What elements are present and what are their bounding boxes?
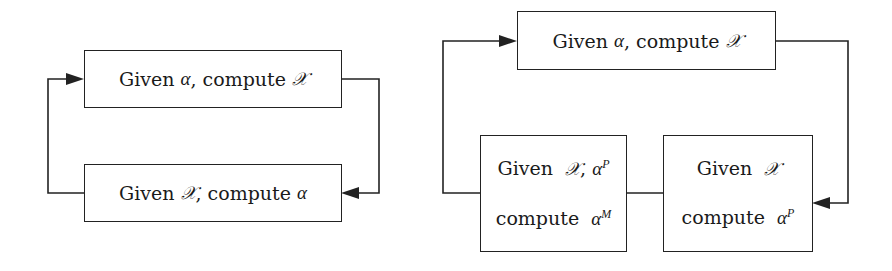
left-top-box: Given α, compute 𝒳 bbox=[84, 50, 342, 108]
superscript: M bbox=[601, 207, 611, 221]
label-text: compute bbox=[496, 207, 585, 229]
alpha-symbol: α bbox=[777, 208, 787, 229]
right-bottom-left-box: Given 𝒳, αP compute αM bbox=[480, 135, 627, 252]
right-bottom-right-box: Given 𝒳 compute αP bbox=[663, 135, 813, 252]
label-text: Given bbox=[119, 182, 174, 204]
label-text: Given bbox=[697, 157, 759, 179]
label-text: , compute bbox=[191, 68, 286, 90]
alpha-symbol: α bbox=[297, 182, 307, 204]
script-x-symbol: 𝒳 bbox=[764, 158, 779, 179]
script-x-symbol: 𝒳 bbox=[292, 68, 307, 90]
alpha-symbol: α bbox=[591, 208, 601, 229]
label-text: , compute bbox=[624, 30, 719, 52]
superscript: P bbox=[787, 206, 794, 220]
arrowhead-icon bbox=[341, 187, 359, 199]
alpha-symbol: α bbox=[181, 68, 191, 90]
arrowhead-icon bbox=[66, 73, 84, 85]
box-line-2: compute αM bbox=[496, 207, 611, 230]
arrowhead-icon bbox=[812, 197, 830, 209]
box-line-2: compute αP bbox=[682, 206, 795, 229]
label-text: Given bbox=[552, 30, 607, 52]
superscript: P bbox=[602, 157, 609, 171]
label-text: , bbox=[580, 157, 592, 179]
label-text: Given bbox=[498, 157, 560, 179]
arrowhead-icon bbox=[499, 35, 517, 47]
script-x-symbol: 𝒳 bbox=[565, 158, 580, 179]
left-forward-line bbox=[341, 79, 379, 193]
left-bottom-box: Given 𝒳, compute α bbox=[84, 164, 342, 222]
alpha-symbol: α bbox=[614, 30, 624, 52]
script-x-symbol: 𝒳 bbox=[181, 182, 196, 204]
label-text: , compute bbox=[196, 182, 291, 204]
box-line-1: Given 𝒳, αP bbox=[498, 157, 610, 180]
label-text: Given bbox=[119, 68, 174, 90]
label-text: compute bbox=[682, 207, 771, 229]
left-feedback-line bbox=[48, 79, 84, 193]
script-x-symbol: 𝒳 bbox=[726, 30, 741, 52]
box-line-1: Given 𝒳 bbox=[697, 157, 780, 180]
right-top-box: Given α, compute 𝒳 bbox=[517, 11, 776, 70]
alpha-symbol: α bbox=[592, 158, 602, 179]
